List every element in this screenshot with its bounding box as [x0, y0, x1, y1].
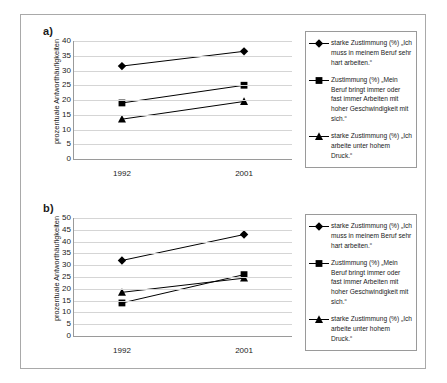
gridline	[74, 100, 292, 101]
triangle-marker-icon	[309, 132, 329, 141]
y-axis-tick-label: 5	[67, 320, 71, 328]
y-axis-tick-label: 50	[62, 214, 71, 222]
gridline	[74, 130, 292, 131]
plot-canvas-a: 051015202530354019922001	[73, 41, 292, 160]
y-axis-tick-label: 25	[62, 81, 71, 89]
diamond-marker-icon	[240, 47, 248, 55]
gridline	[74, 218, 292, 219]
legend-item-label: Zustimmung (%) „Mein Beruf bringt immer …	[331, 75, 412, 124]
chart-legend-b: starke Zustimmung (%) „Ich muss in meine…	[305, 214, 417, 351]
y-axis-tick-label: 45	[62, 226, 71, 234]
y-axis-tick-label: 10	[62, 308, 71, 316]
y-axis-tick-label: 35	[62, 52, 71, 60]
gridline	[74, 41, 292, 42]
diamond-marker-icon	[118, 256, 126, 264]
legend-item: starke Zustimmung (%) „Ich muss in meine…	[309, 221, 412, 251]
gridline	[74, 253, 292, 254]
legend-item-label: starke Zustimmung (%) „Ich arbeite unter…	[331, 131, 412, 161]
gridline	[74, 56, 292, 57]
y-axis-label-a: prozentuale Antworthäufigkeiten	[52, 27, 61, 157]
y-axis-tick-label: 20	[62, 96, 71, 104]
triangle-marker-icon	[309, 315, 329, 324]
series-line	[122, 101, 244, 119]
diamond-marker-icon	[240, 230, 248, 238]
y-axis-tick-label: 10	[62, 126, 71, 134]
chart-panel-a: a) prozentuale Antworthäufigkeiten 05101…	[21, 15, 427, 192]
legend-item-label: starke Zustimmung (%) „Ich muss in meine…	[331, 38, 412, 68]
gridline	[74, 312, 292, 313]
y-axis-tick-label: 30	[62, 261, 71, 269]
gridline	[74, 71, 292, 72]
legend-item-label: Zustimmung (%) „Mein Beruf bringt immer …	[331, 258, 412, 307]
series-line	[122, 278, 244, 292]
y-axis-tick-label: 25	[62, 273, 71, 281]
gridline	[74, 242, 292, 243]
plot-area-a: prozentuale Antworthäufigkeiten 05101520…	[35, 41, 295, 181]
y-axis-tick-label: 0	[67, 332, 71, 340]
series-line	[122, 51, 244, 66]
y-axis-label-b: prozentuale Antworthäufigkeiten	[52, 204, 61, 334]
gridline	[74, 85, 292, 86]
figure-container: a) prozentuale Antworthäufigkeiten 05101…	[20, 14, 426, 369]
plot-canvas-b: 0510152025303540455019922001	[73, 218, 292, 337]
legend-item: starke Zustimmung (%) „Ich arbeite unter…	[309, 314, 412, 344]
x-axis-tick-label: 2001	[235, 169, 253, 178]
diamond-marker-icon	[118, 62, 126, 70]
y-axis-tick-label: 20	[62, 285, 71, 293]
y-axis-tick-label: 35	[62, 249, 71, 257]
triangle-marker-icon	[240, 97, 248, 105]
y-axis-tick-label: 15	[62, 111, 71, 119]
plot-area-b: prozentuale Antworthäufigkeiten 05101520…	[35, 218, 295, 358]
x-axis-tick-label: 1992	[113, 169, 131, 178]
y-axis-tick-label: 30	[62, 67, 71, 75]
gridline	[74, 265, 292, 266]
chart-legend-a: starke Zustimmung (%) „Ich muss in meine…	[305, 31, 417, 168]
gridline	[74, 324, 292, 325]
y-axis-tick-label: 40	[62, 238, 71, 246]
legend-item-label: starke Zustimmung (%) „Ich muss in meine…	[331, 221, 412, 251]
gridline	[74, 144, 292, 145]
y-axis-tick-label: 5	[67, 140, 71, 148]
y-axis-tick-label: 40	[62, 37, 71, 45]
x-axis-tick-label: 2001	[235, 346, 253, 355]
series-line	[122, 235, 244, 261]
diamond-marker-icon	[309, 222, 329, 231]
legend-item: starke Zustimmung (%) „Ich arbeite unter…	[309, 131, 412, 161]
legend-item-label: starke Zustimmung (%) „Ich arbeite unter…	[331, 314, 412, 344]
legend-item: starke Zustimmung (%) „Ich muss in meine…	[309, 38, 412, 68]
gridline	[74, 301, 292, 302]
gridline	[74, 289, 292, 290]
gridline	[74, 115, 292, 116]
legend-item: Zustimmung (%) „Mein Beruf bringt immer …	[309, 75, 412, 124]
x-axis-tick-label: 1992	[113, 346, 131, 355]
y-axis-tick-label: 15	[62, 297, 71, 305]
square-marker-icon	[309, 76, 329, 85]
chart-panel-b: b) prozentuale Antworthäufigkeiten 05101…	[21, 192, 427, 369]
gridline	[74, 277, 292, 278]
diamond-marker-icon	[309, 39, 329, 48]
legend-item: Zustimmung (%) „Mein Beruf bringt immer …	[309, 258, 412, 307]
square-marker-icon	[309, 259, 329, 268]
gridline	[74, 230, 292, 231]
y-axis-tick-label: 0	[67, 155, 71, 163]
